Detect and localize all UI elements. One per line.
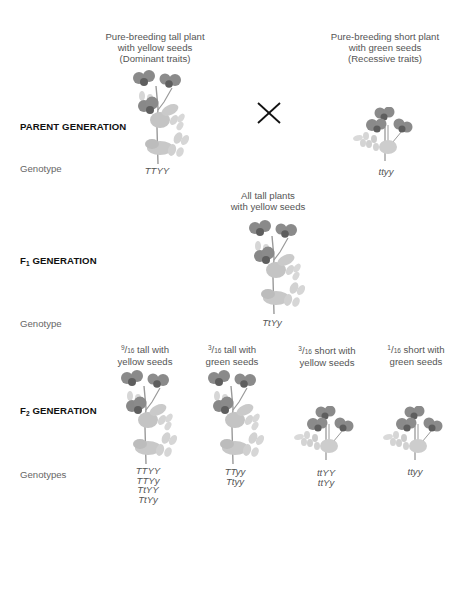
label-suffix: GENERATION [30,405,97,416]
caption-line: green seeds [374,357,458,368]
caption-line: with green seeds [318,43,452,54]
tall-plant-icon [205,368,271,464]
tall-plant-icon [118,368,184,464]
caption-line: with yellow seeds [218,202,318,213]
label-suffix: GENERATION [30,255,97,266]
f1-caption: All tall plants with yellow seeds [218,191,318,213]
parent-generation-label: PARENT GENERATION [20,121,126,132]
genotype-value: TTYY [137,166,177,176]
short-plant-icon [382,406,446,460]
genotype-list: ttyy [395,467,435,477]
genotype-value: ttyy [366,167,406,177]
f2-generation-label: F2 GENERATION [20,405,97,417]
caption-line: tall with [134,344,169,355]
f2-phenotype-caption: 1/16 short with green seeds [374,343,458,368]
caption-line: short with [401,344,445,355]
genotype-list: TTYY TTYy TtYY TtYy [128,466,168,504]
short-plant-icon [352,107,416,161]
caption-line: short with [312,345,356,356]
caption-line: (Recessive traits) [318,54,452,65]
short-plant-icon [293,406,357,460]
caption-line: tall with [221,344,256,355]
parent-recessive-caption: Pure-breeding short plant with green see… [318,32,452,64]
tall-plant-icon [130,68,196,164]
cross-icon [257,102,281,124]
f2-phenotype-caption: 3/16 short with yellow seeds [284,344,370,369]
caption-line: green seeds [192,357,272,368]
fraction-numerator: 3 [298,345,302,352]
genotype-value: TtYy [128,495,168,505]
fraction-denominator: 16 [394,347,401,354]
genotype-label: Genotype [20,163,62,174]
caption-line: with yellow seeds [95,43,215,54]
fraction-numerator: 3 [208,344,212,351]
fraction-denominator: 16 [305,348,312,355]
fraction-numerator: 9 [121,344,125,351]
genotype-value: ttYy [306,478,346,488]
genotype-value: TtYy [252,318,292,328]
caption-line: yellow seeds [105,357,185,368]
caption-line: (Dominant traits) [95,54,215,65]
f2-phenotype-caption: 3/16 tall with green seeds [192,343,272,368]
parent-dominant-caption: Pure-breeding tall plant with yellow see… [95,32,215,64]
genotype-list: ttYY ttYy [306,468,346,487]
tall-plant-icon [246,218,312,314]
caption-line: yellow seeds [284,358,370,369]
f2-phenotype-caption: 9/16 tall with yellow seeds [105,343,185,368]
genotype-label: Genotype [20,318,62,329]
genotype-value: ttyy [395,467,435,477]
f1-generation-label: F1 GENERATION [20,255,97,267]
genotype-value: Ttyy [215,477,255,487]
genotypes-label: Genotypes [20,469,66,480]
genotype-list: TTyy Ttyy [215,467,255,486]
fraction-numerator: 1 [387,344,391,351]
